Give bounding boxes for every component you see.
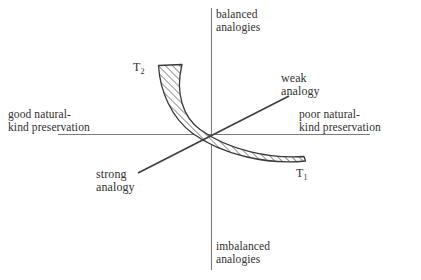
good-line2: kind preservation [8, 121, 90, 133]
label-band-end-t2: T2 [133, 61, 144, 79]
poor-line2: kind preservation [299, 121, 381, 133]
imbalanced-line2: analogies [216, 253, 260, 265]
weak-line2: analogy [281, 84, 320, 98]
quadrant-diagram-graphic [0, 0, 421, 280]
axis-label-good-natural-kind-preservation: good natural-kind preservation [8, 108, 90, 133]
t1-subscript: 1 [303, 173, 307, 182]
label-weak-analogy: weakanalogy [281, 72, 320, 97]
axis-label-balanced-analogies: balancedanalogies [216, 8, 260, 33]
label-strong-analogy: stronganalogy [96, 168, 135, 193]
good-line1: good natural- [8, 108, 71, 120]
balanced-line2: analogies [216, 21, 260, 33]
axis-label-imbalanced-analogies: imbalancedanalogies [216, 240, 270, 265]
balanced-line1: balanced [216, 8, 258, 20]
figure-canvas: balancedanalogies imbalancedanalogies go… [0, 0, 421, 280]
poor-line1: poor natural- [299, 108, 360, 120]
strong-line2: analogy [96, 180, 135, 194]
imbalanced-line1: imbalanced [216, 240, 270, 252]
label-band-end-t1: T1 [296, 167, 307, 185]
t2-subscript: 2 [140, 67, 144, 76]
axis-label-poor-natural-kind-preservation: poor natural-kind preservation [299, 108, 381, 133]
